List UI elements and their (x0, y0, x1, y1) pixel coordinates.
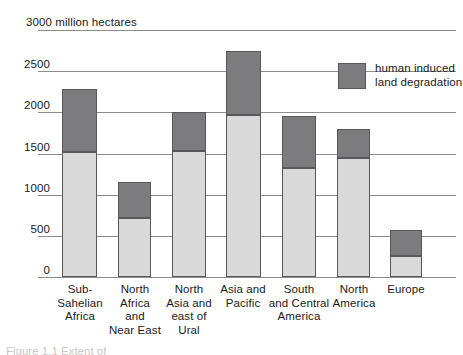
y-tick-1000: 1000 (0, 182, 50, 194)
bar-segment-degraded (282, 116, 316, 168)
y-tick-2000: 2000 (0, 99, 50, 111)
chart-screenshot: 3000 million hectares 2500 2000 1500 100… (0, 0, 463, 355)
y-tick-0: 0 (0, 264, 50, 276)
bar-segment-degraded (390, 230, 422, 256)
bar-segment-degraded (62, 89, 97, 152)
bar-segment-base (337, 158, 370, 277)
legend-swatch-human-induced-land-degradation (338, 63, 366, 89)
bar-segment-degraded (226, 51, 261, 115)
bar-north-america[interactable] (337, 129, 370, 277)
bar-segment-degraded (337, 129, 370, 158)
axis-baseline (38, 277, 456, 278)
bar-europe[interactable] (390, 230, 422, 277)
gridline-3000 (38, 30, 456, 31)
bar-south-and-central-america[interactable] (282, 116, 316, 277)
bar-segment-base (118, 218, 151, 277)
category-label-europe: Europe (373, 283, 439, 297)
chart-legend: human induced land degradation (338, 62, 462, 89)
y-tick-500: 500 (0, 223, 50, 235)
bar-segment-base (226, 115, 261, 277)
bar-segment-base (390, 256, 422, 277)
legend-label-human-induced-land-degradation: human induced land degradation (375, 62, 462, 89)
y-tick-1500: 1500 (0, 141, 50, 153)
bar-segment-base (172, 151, 206, 277)
bar-segment-base (62, 152, 97, 277)
bar-sub-sahelian-africa[interactable] (62, 89, 97, 277)
bar-north-asia-east-of-ural[interactable] (172, 112, 206, 277)
bar-segment-degraded (118, 182, 151, 217)
y-axis-title: 3000 million hectares (26, 16, 137, 28)
bar-segment-base (282, 168, 316, 277)
bar-segment-degraded (172, 112, 206, 152)
bar-north-africa-near-east[interactable] (118, 182, 151, 277)
caption-fragment: Figure 1.1 Extent of (6, 345, 106, 355)
bar-asia-and-pacific[interactable] (226, 51, 261, 277)
y-tick-2500: 2500 (0, 58, 50, 70)
stacked-bar-chart: 3000 million hectares 2500 2000 1500 100… (0, 0, 463, 355)
